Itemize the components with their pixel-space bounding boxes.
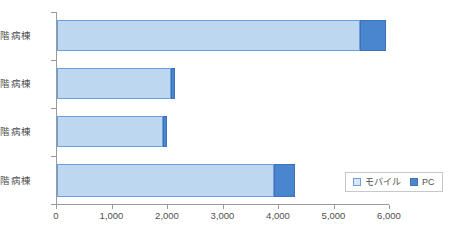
x-axis-label: 0 (53, 211, 58, 221)
bar-row-ward3: 3 階病棟 (0, 68, 461, 99)
bar-row-ward4: 4 階病棟 (0, 116, 461, 147)
x-axis-label: 2,000 (155, 211, 179, 221)
y-axis-label-ward2: 2 階病棟 (0, 31, 52, 41)
bar-segment-mobile-ward3[interactable] (57, 68, 171, 99)
bar-segment-mobile-ward4[interactable] (57, 116, 163, 147)
y-axis-tick (51, 12, 56, 13)
x-axis-tick (278, 205, 279, 209)
x-axis-tick (223, 205, 224, 209)
x-axis-tick (167, 205, 168, 209)
y-axis-label-ward4: 4 階病棟 (0, 127, 52, 137)
x-axis-label: 3,000 (211, 211, 235, 221)
stacked-bar-chart: 2 階病棟 3 階病棟 4 階病棟 5 階病棟 01,0002,0003,000… (0, 0, 461, 237)
x-axis-tick (389, 205, 390, 209)
bar-segment-pc-ward2[interactable] (360, 20, 386, 51)
legend-label-pc: PC (422, 178, 435, 187)
x-axis-tick (112, 205, 113, 209)
x-axis-label: 5,000 (322, 211, 346, 221)
x-axis-label: 4,000 (266, 211, 290, 221)
pc-swatch-icon (410, 178, 418, 186)
y-axis-tick (51, 60, 56, 61)
bar-segment-pc-ward4[interactable] (163, 116, 167, 147)
legend-entry-pc[interactable]: PC (410, 178, 435, 187)
mobile-swatch-icon (353, 178, 361, 186)
y-axis-tick (51, 108, 56, 109)
bar-segment-mobile-ward2[interactable] (57, 20, 360, 51)
x-axis-label: 1,000 (100, 211, 124, 221)
x-axis-label: 6,000 (377, 211, 401, 221)
legend-entry-mobile[interactable]: モバイル (353, 178, 401, 187)
chart-legend[interactable]: モバイル PC (345, 172, 443, 192)
y-axis-label-ward3: 3 階病棟 (0, 79, 52, 89)
bar-row-ward2: 2 階病棟 (0, 20, 461, 51)
bar-segment-pc-ward3[interactable] (171, 68, 175, 99)
legend-label-mobile: モバイル (365, 178, 401, 187)
bar-segment-mobile-ward5[interactable] (57, 164, 274, 197)
x-axis-tick (56, 205, 57, 209)
x-axis-tick (334, 205, 335, 209)
y-axis-label-ward5: 5 階病棟 (0, 176, 52, 186)
y-axis-tick (51, 156, 56, 157)
bar-segment-pc-ward5[interactable] (274, 164, 295, 197)
